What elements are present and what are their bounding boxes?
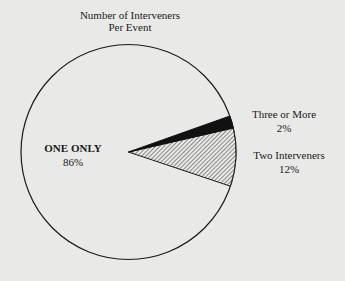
label-one-only-pct: 86%	[36, 155, 110, 169]
label-one-only-name: ONE ONLY	[44, 142, 101, 154]
label-three-or-more-name: Three or More	[252, 108, 316, 120]
label-two-interveners-pct: 12%	[246, 162, 332, 176]
label-one-only: ONE ONLY 86%	[36, 141, 110, 169]
label-three-or-more-pct: 2%	[244, 121, 324, 135]
label-three-or-more: Three or More 2%	[244, 107, 324, 135]
label-two-interveners-name: Two Interveners	[253, 149, 325, 161]
pie-chart: Number of Interveners Per Event Three or…	[0, 0, 345, 281]
label-two-interveners: Two Interveners 12%	[246, 148, 332, 176]
